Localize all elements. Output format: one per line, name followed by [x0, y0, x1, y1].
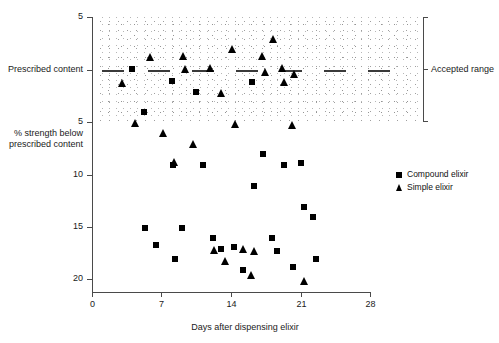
legend-item-compound: Compound elixir [395, 168, 468, 181]
data-point-simple [258, 52, 266, 60]
data-point-simple [217, 89, 225, 97]
data-point-simple [179, 52, 187, 60]
data-point-compound [141, 109, 147, 115]
data-point-simple [290, 70, 298, 78]
data-point-simple [131, 119, 139, 127]
data-point-simple [146, 53, 154, 61]
data-point-compound [290, 264, 296, 270]
data-point-compound [193, 89, 199, 95]
data-point-compound [231, 244, 237, 250]
data-point-compound [260, 151, 266, 157]
data-point-simple [269, 35, 277, 43]
data-point-compound [210, 235, 216, 241]
data-point-simple [118, 79, 126, 87]
data-point-simple [189, 140, 197, 148]
data-point-simple [261, 68, 269, 76]
data-point-simple [247, 271, 255, 279]
data-point-simple [231, 120, 239, 128]
data-point-compound [310, 214, 316, 220]
triangle-marker-icon [396, 184, 402, 191]
data-point-compound [200, 162, 206, 168]
legend-label-compound: Compound elixir [407, 169, 468, 179]
data-point-simple [159, 129, 167, 137]
data-point-compound [281, 162, 287, 168]
data-point-compound [169, 78, 175, 84]
legend-item-simple: Simple elixir [395, 181, 468, 194]
data-point-compound [313, 256, 319, 262]
data-point-compound [129, 66, 135, 72]
data-point-simple [210, 246, 218, 254]
data-point-simple [239, 245, 247, 253]
legend-label-simple: Simple elixir [407, 182, 453, 192]
data-point-simple [228, 45, 236, 53]
data-point-simple [206, 64, 214, 72]
data-point-compound [249, 79, 255, 85]
square-marker-icon [396, 172, 402, 178]
data-point-compound [172, 256, 178, 262]
data-point-simple [181, 65, 189, 73]
data-point-compound [153, 242, 159, 248]
data-point-compound [240, 267, 246, 273]
data-point-simple [300, 277, 308, 285]
chart-legend: Compound elixir Simple elixir [395, 168, 468, 194]
data-point-compound [179, 225, 185, 231]
data-point-compound [251, 183, 257, 189]
data-point-compound [142, 225, 148, 231]
data-point-simple [170, 158, 178, 166]
data-point-compound [298, 160, 304, 166]
data-point-compound [269, 235, 275, 241]
data-point-simple [221, 257, 229, 265]
data-point-compound [218, 246, 224, 252]
data-point-compound [274, 248, 280, 254]
data-point-simple [278, 64, 286, 72]
data-point-simple [280, 78, 288, 86]
data-point-simple [250, 247, 258, 255]
data-point-simple [288, 121, 296, 129]
data-point-compound [301, 204, 307, 210]
